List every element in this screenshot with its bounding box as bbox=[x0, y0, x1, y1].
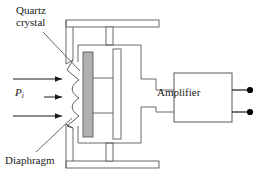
pressure-subscript: i bbox=[22, 91, 24, 100]
corrugated-diaphragm bbox=[67, 60, 79, 128]
label-diaphragm: Diaphragm bbox=[5, 154, 54, 166]
label-amplifier: Amplifier bbox=[157, 86, 200, 98]
quartz-crystal-bar bbox=[83, 52, 93, 137]
label-quartz-crystal: Quartz crystal bbox=[16, 4, 46, 29]
leader-line-diaphragm bbox=[36, 118, 72, 152]
output-terminal-upper bbox=[247, 87, 253, 93]
bottom-stem bbox=[106, 143, 113, 161]
label-quartz-crystal-line2: crystal bbox=[16, 16, 46, 28]
bottom-mounting-bar bbox=[66, 161, 159, 168]
leader-line-quartz-crystal bbox=[43, 32, 80, 71]
output-terminal-lower bbox=[247, 109, 253, 115]
piezoelectric-transducer-diagram: Quartz crystal Diaphragm Pi Amplifier bbox=[0, 0, 259, 187]
top-mounting-bar bbox=[66, 20, 159, 27]
pressure-arrow-middle bbox=[44, 94, 62, 99]
pressure-arrow-top bbox=[13, 76, 62, 81]
backing-plate-bar bbox=[113, 49, 121, 139]
pressure-symbol: P bbox=[15, 86, 22, 98]
label-quartz-crystal-line1: Quartz bbox=[16, 4, 46, 16]
top-stem bbox=[106, 27, 113, 45]
label-pressure-input: Pi bbox=[15, 86, 24, 101]
pressure-arrow-bottom bbox=[13, 113, 62, 118]
signal-wire-lower bbox=[141, 107, 174, 112]
